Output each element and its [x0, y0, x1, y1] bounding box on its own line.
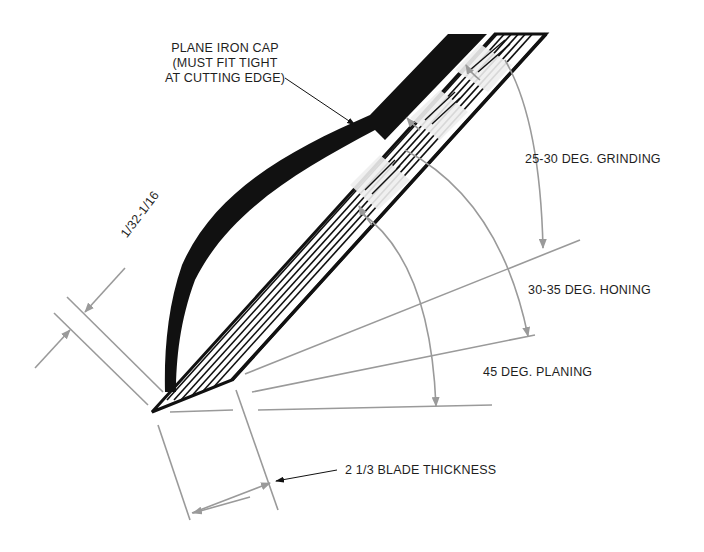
plane-iron-cap: [165, 34, 487, 392]
thickness-leader-arrow: [276, 470, 337, 481]
cap-label-line3: AT CUTTING EDGE): [150, 71, 300, 86]
thickness-label: 2 1/3 BLADE THICKNESS: [345, 463, 496, 478]
grinding-label: 25-30 DEG. GRINDING: [525, 152, 661, 167]
cap-label-line2: (MUST FIT TIGHT: [150, 56, 300, 71]
honing-label: 30-35 DEG. HONING: [528, 283, 651, 298]
planing-label: 45 DEG. PLANING: [483, 365, 592, 380]
cap-distance-dimension: [35, 268, 163, 405]
diagram-canvas: PLANE IRON CAP (MUST FIT TIGHT AT CUTTIN…: [0, 0, 704, 552]
cap-label: PLANE IRON CAP (MUST FIT TIGHT AT CUTTIN…: [150, 41, 300, 86]
cap-label-line1: PLANE IRON CAP: [150, 41, 300, 56]
